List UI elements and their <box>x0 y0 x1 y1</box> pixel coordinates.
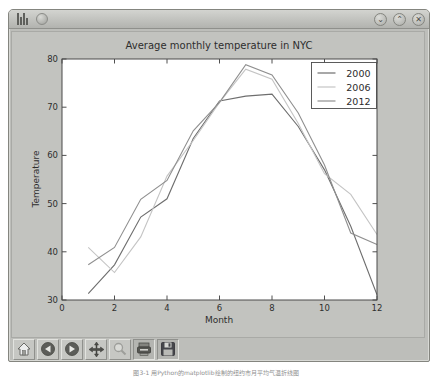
y-axis-label: Temperature <box>31 150 41 208</box>
navigation-toolbar <box>11 338 427 360</box>
x-tick-label: 6 <box>217 303 222 313</box>
home-icon <box>16 341 32 357</box>
subplots-icon <box>136 341 152 357</box>
zoom-button[interactable] <box>109 339 131 360</box>
plot-svg: 024681012304050607080200020062012 Averag… <box>12 32 424 337</box>
legend-label-2006: 2006 <box>346 82 370 93</box>
pan-button[interactable] <box>85 339 107 360</box>
legend-label-2000: 2000 <box>346 68 370 79</box>
y-tick-label: 50 <box>47 199 58 209</box>
back-button[interactable] <box>37 339 59 360</box>
pan-icon <box>88 341 105 358</box>
maximize-button[interactable]: ⌃ <box>393 13 406 26</box>
y-tick-label: 30 <box>47 295 58 305</box>
y-tick-label: 60 <box>47 150 58 160</box>
forward-icon <box>64 341 80 357</box>
x-tick-label: 8 <box>269 303 274 313</box>
x-tick-label: 10 <box>319 303 330 313</box>
x-tick-label: 12 <box>372 303 383 313</box>
close-button[interactable]: ✕ <box>412 13 425 26</box>
figure-window: ⌄ ⌃ ✕ 024681012304050607080200020062012 … <box>8 9 430 362</box>
figure-canvas[interactable]: 024681012304050607080200020062012 Averag… <box>11 31 425 338</box>
save-icon <box>160 341 176 357</box>
x-tick-label: 2 <box>112 303 117 313</box>
window-titlebar[interactable]: ⌄ ⌃ ✕ <box>9 10 429 29</box>
subplots-button[interactable] <box>133 339 155 360</box>
menu-orb-icon[interactable] <box>36 13 48 25</box>
home-button[interactable] <box>13 339 35 360</box>
save-button[interactable] <box>157 339 179 360</box>
y-tick-label: 40 <box>47 247 58 257</box>
legend-label-2012: 2012 <box>346 96 370 107</box>
minimize-button[interactable]: ⌄ <box>374 13 387 26</box>
y-tick-label: 70 <box>47 102 58 112</box>
figure-caption: 图3-1 用Python的matplotlib绘制的纽约市月平均气温折线图 <box>0 368 432 377</box>
y-tick-label: 80 <box>47 54 58 64</box>
matplotlib-app-icon <box>17 13 29 25</box>
forward-button[interactable] <box>61 339 83 360</box>
x-tick-label: 0 <box>59 303 64 313</box>
x-tick-label: 4 <box>164 303 169 313</box>
back-icon <box>40 341 56 357</box>
x-axis-label: Month <box>205 315 233 325</box>
zoom-rect-icon <box>112 341 128 357</box>
chart-title: Average monthly temperature in NYC <box>126 40 313 51</box>
